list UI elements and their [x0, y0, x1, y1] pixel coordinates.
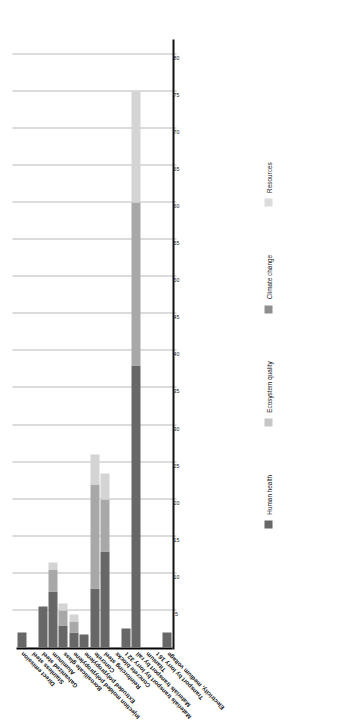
axis-tick-label: 75	[173, 91, 179, 97]
bar-segment	[69, 621, 78, 632]
bar-segment	[48, 562, 57, 569]
axis-tick-label: 65	[173, 165, 179, 171]
plot-inner	[16, 39, 172, 647]
axis-tick-label: 25	[173, 462, 179, 468]
bar-segment	[100, 499, 109, 551]
bar-segment	[58, 625, 67, 647]
bar-row	[121, 39, 130, 647]
bar-segment	[90, 588, 99, 647]
bar-segment	[38, 606, 47, 647]
bar-row	[38, 39, 47, 647]
legend-item[interactable]: Climate change	[264, 254, 272, 312]
axis-tick-label: 70	[173, 128, 179, 134]
axis-tick-label: 5	[175, 610, 178, 616]
axis-tick-label: 30	[173, 425, 179, 431]
bar-row	[110, 39, 119, 647]
legend-item[interactable]: Ecosystem quality	[264, 361, 272, 427]
axis-tick-label: 10	[173, 573, 179, 579]
axis-tick-label: 40	[173, 350, 179, 356]
bar-segment	[90, 484, 99, 588]
bar-row	[152, 39, 161, 647]
bar-segment	[131, 365, 140, 647]
axis-tick-label: 20	[173, 499, 179, 505]
bar-row	[79, 39, 88, 647]
bar-row	[131, 39, 140, 647]
legend-swatch-icon	[264, 418, 272, 426]
legend-label: Climate change	[265, 254, 272, 298]
legend-swatch-icon	[264, 520, 272, 528]
bar-row	[100, 39, 109, 647]
chart-legend: Human healthEcosystem qualityClimate cha…	[248, 41, 288, 649]
bar-row	[69, 39, 78, 647]
bar-segment	[69, 632, 78, 647]
axis-tick-label: 35	[173, 388, 179, 394]
axis-tick-label: 50	[173, 276, 179, 282]
bar-segment	[100, 551, 109, 647]
bar-segment	[58, 610, 67, 625]
bar-row	[27, 39, 36, 647]
bar-segment	[131, 91, 140, 202]
axis-tick-label: 80	[173, 54, 179, 60]
legend-swatch-icon	[264, 305, 272, 313]
bar-segment	[162, 632, 171, 647]
bar-segment	[79, 634, 88, 647]
bar-row	[90, 39, 99, 647]
axis-tick-label: 15	[173, 536, 179, 542]
bar-segment	[17, 632, 26, 647]
bar-segment	[69, 614, 78, 621]
legend-item[interactable]: Human health	[264, 474, 272, 528]
legend-label: Human health	[265, 474, 272, 514]
bar-segment	[48, 591, 57, 647]
bar-row	[58, 39, 67, 647]
legend-label: Ecosystem quality	[265, 361, 272, 413]
bar-segment	[58, 603, 67, 610]
bar-segment	[90, 454, 99, 484]
axis-tick-label: 45	[173, 313, 179, 319]
bar-segment	[131, 202, 140, 365]
axis-tick-label: 55	[173, 239, 179, 245]
legend-swatch-icon	[264, 198, 272, 206]
bar-row	[17, 39, 26, 647]
bar-row	[142, 39, 151, 647]
bar-row	[48, 39, 57, 647]
bar-segment	[48, 569, 57, 591]
axis-tick-label: 60	[173, 202, 179, 208]
bar-segment	[100, 473, 109, 499]
legend-item[interactable]: Resources	[264, 162, 272, 207]
bar-row	[162, 39, 171, 647]
legend-label: Resources	[265, 162, 272, 193]
bar-segment	[121, 628, 130, 647]
plot-area: 5101520253035404550556065707580 Direct e…	[16, 39, 172, 649]
